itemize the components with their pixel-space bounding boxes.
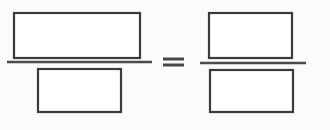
left-fraction-group [7, 13, 152, 112]
right-numerator-rectangle [209, 13, 292, 58]
right-denominator-rectangle [210, 70, 293, 112]
right-fraction-group [200, 13, 306, 112]
figure-canvas [0, 0, 330, 130]
rectangle-fraction-equation [0, 0, 330, 130]
left-denominator-rectangle [38, 69, 121, 112]
equals-sign [163, 59, 184, 65]
left-numerator-rectangle [14, 13, 140, 58]
